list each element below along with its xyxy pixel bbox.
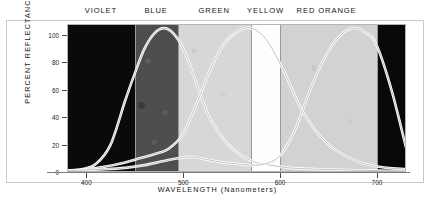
y-axis-title: PERCENT REFLECTANCE xyxy=(23,0,32,114)
band-label-green: GREEN xyxy=(198,6,230,15)
spectral-reflectance-figure: VIOLET BLUE GREEN YELLOW RED ORANGE PERC… xyxy=(0,0,435,200)
curve-red-sensitive xyxy=(67,28,406,171)
curve-halo-red-sensitive xyxy=(67,28,406,171)
y-tick-label-80: 80 xyxy=(39,59,59,66)
curve-blue-sensitive xyxy=(67,28,406,171)
x-tick-600 xyxy=(280,173,281,178)
curve-green-sensitive xyxy=(67,28,406,171)
band-label-row: VIOLET BLUE GREEN YELLOW RED ORANGE xyxy=(0,6,435,20)
band-label-violet: VIOLET xyxy=(85,6,117,15)
y-tick-label-40: 40 xyxy=(39,114,59,121)
x-tick-400 xyxy=(86,173,87,178)
x-tick-700 xyxy=(377,173,378,178)
x-tick-500 xyxy=(183,173,184,178)
x-axis-line xyxy=(47,172,410,173)
y-tick-label-100: 100 xyxy=(39,31,59,38)
curve-halo-green-sensitive xyxy=(67,28,406,171)
curve-halo-blue-sensitive xyxy=(67,28,406,171)
band-label-yellow: YELLOW xyxy=(247,6,284,15)
y-tick-label-20: 20 xyxy=(39,141,59,148)
band-label-red-orange: RED ORANGE xyxy=(297,6,357,15)
reflectance-curves xyxy=(67,24,406,172)
plot-area xyxy=(67,24,406,172)
y-tick-label-60: 60 xyxy=(39,86,59,93)
x-axis-title: WAVELENGTH (Nanometers) xyxy=(0,185,435,194)
band-label-blue: BLUE xyxy=(144,6,167,15)
